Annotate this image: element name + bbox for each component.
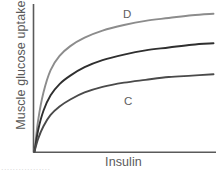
curve-c [35,74,214,151]
y-axis-label: Muscle glucose uptake [14,0,28,130]
chart-figure: Muscle glucose uptake Insulin D C ......… [0,0,224,173]
curve-label-d: D [123,8,131,20]
series-group [35,14,214,152]
caption-remnant-text: ................. [1,162,87,171]
curve-label-c: C [124,95,132,107]
chart-plot-area [0,0,224,173]
